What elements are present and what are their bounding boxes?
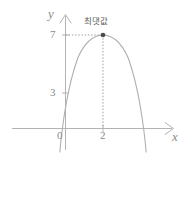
vertex-point-marker (101, 33, 106, 38)
vertex-annotation-label: 최댓값 (84, 17, 108, 26)
x-axis-label: x (172, 130, 178, 143)
y-axis-label: y (48, 7, 54, 20)
graph-canvas (0, 0, 194, 202)
y-tick-label-7: 7 (50, 29, 56, 40)
origin-label: 0 (57, 130, 63, 141)
y-tick-label-3: 3 (50, 87, 56, 98)
x-tick-label-2: 2 (100, 130, 106, 141)
parabola-figure: 7 3 0 2 y x 최댓값 (0, 0, 194, 202)
x-axis (12, 123, 174, 135)
